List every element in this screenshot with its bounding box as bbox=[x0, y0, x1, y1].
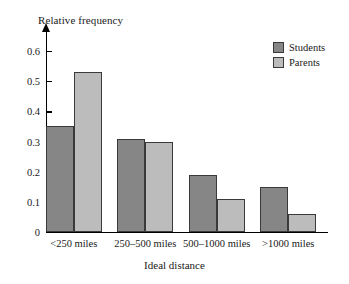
y-axis-tick-label: 0 bbox=[0, 227, 40, 238]
x-axis-category-label: 500–1000 miles bbox=[183, 238, 250, 249]
bar-parents-0 bbox=[74, 72, 102, 232]
bar-parents-3 bbox=[288, 214, 316, 232]
y-axis-tick bbox=[46, 232, 52, 233]
x-axis-title: Ideal distance bbox=[0, 259, 349, 271]
legend-label-parents: Parents bbox=[289, 57, 320, 68]
x-axis-category-label: 250–500 miles bbox=[114, 238, 176, 249]
legend-swatch-students-icon bbox=[273, 42, 284, 53]
y-axis-tick-label: 0.4 bbox=[0, 106, 40, 117]
relative-frequency-bar-chart: Relative frequency 00.10.20.30.40.50.6 <… bbox=[0, 0, 349, 284]
legend-swatch-parents-icon bbox=[273, 57, 284, 68]
y-axis-arrow-icon bbox=[42, 23, 50, 32]
y-axis-tick-label: 0.1 bbox=[0, 196, 40, 207]
y-axis-tick-label: 0.5 bbox=[0, 76, 40, 87]
bar-students-2 bbox=[189, 175, 217, 232]
y-axis-tick-label: 0.2 bbox=[0, 166, 40, 177]
bar-parents-2 bbox=[217, 199, 245, 232]
bar-students-1 bbox=[117, 139, 145, 232]
bar-students-0 bbox=[46, 126, 74, 232]
x-axis-category-label: <250 miles bbox=[50, 238, 97, 249]
legend-item-students: Students bbox=[273, 41, 325, 53]
bar-students-3 bbox=[260, 187, 288, 232]
x-axis-line bbox=[46, 232, 328, 233]
y-axis-tick-label: 0.3 bbox=[0, 136, 40, 147]
bar-parents-1 bbox=[145, 142, 173, 232]
x-axis-category-label: >1000 miles bbox=[262, 238, 314, 249]
legend-item-parents: Parents bbox=[273, 56, 325, 68]
chart-legend: Students Parents bbox=[273, 41, 325, 71]
y-axis-tick-label: 0.6 bbox=[0, 46, 40, 57]
legend-label-students: Students bbox=[289, 42, 325, 53]
y-axis-title: Relative frequency bbox=[38, 14, 123, 26]
